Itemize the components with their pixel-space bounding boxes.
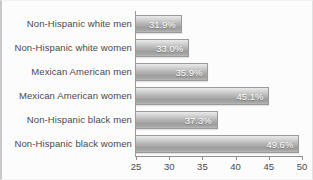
plot-area: Non-Hispanic white men31.9%Non-Hispanic … bbox=[2, 1, 313, 180]
bar-row: Non-Hispanic white women33.0% bbox=[2, 36, 313, 60]
y-axis-line bbox=[135, 11, 136, 157]
x-axis-tick-label: 30 bbox=[157, 161, 181, 172]
bar-value-label: 37.3% bbox=[185, 112, 212, 130]
x-axis-tick-label: 25 bbox=[124, 161, 148, 172]
bar-value-label: 33.0% bbox=[156, 40, 183, 58]
x-axis-tick bbox=[136, 156, 137, 160]
x-axis-tick bbox=[236, 156, 237, 160]
x-axis-tick bbox=[302, 156, 303, 160]
category-label: Non-Hispanic white women bbox=[6, 36, 132, 60]
x-axis-tick-label: 40 bbox=[224, 161, 248, 172]
bar-value-label: 45.1% bbox=[237, 88, 264, 106]
category-label: Mexican American men bbox=[6, 60, 132, 84]
x-axis-tick-label: 35 bbox=[190, 161, 214, 172]
bar-row: Mexican American men35.9% bbox=[2, 60, 313, 84]
bar-value-label: 31.9% bbox=[149, 16, 176, 34]
x-axis-line bbox=[136, 156, 303, 157]
category-label: Non-Hispanic black women bbox=[6, 132, 132, 156]
bar-row: Non-Hispanic black men37.3% bbox=[2, 108, 313, 132]
chart-frame: Non-Hispanic white men31.9%Non-Hispanic … bbox=[0, 0, 313, 180]
category-label: Non-Hispanic white men bbox=[6, 12, 132, 36]
x-axis-tick bbox=[269, 156, 270, 160]
bar-row: Mexican American women45.1% bbox=[2, 84, 313, 108]
x-axis-tick-label: 50 bbox=[290, 161, 313, 172]
category-label: Non-Hispanic black men bbox=[6, 108, 132, 132]
bar-row: Non-Hispanic white men31.9% bbox=[2, 12, 313, 36]
bar: 45.1% bbox=[136, 87, 269, 105]
bar: 35.9% bbox=[136, 63, 208, 81]
bar-value-label: 35.9% bbox=[175, 64, 202, 82]
bar-row: Non-Hispanic black women49.6% bbox=[2, 132, 313, 156]
bar-value-label: 49.6% bbox=[266, 136, 293, 154]
bar: 31.9% bbox=[136, 15, 182, 33]
bar: 49.6% bbox=[136, 135, 299, 153]
category-label: Mexican American women bbox=[6, 84, 132, 108]
bar: 37.3% bbox=[136, 111, 218, 129]
x-axis-tick-label: 45 bbox=[257, 161, 281, 172]
x-axis-tick bbox=[169, 156, 170, 160]
bar: 33.0% bbox=[136, 39, 189, 57]
x-axis-tick bbox=[202, 156, 203, 160]
